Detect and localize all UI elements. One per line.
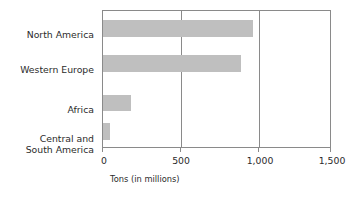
category-axis-labels: North America Western Europe Africa Cent… [0,10,98,148]
bar-chart: North America Western Europe Africa Cent… [0,0,360,200]
tick-label-1500: 1,500 [319,155,346,166]
x-axis-title: Tons (in millions) [110,174,180,184]
tick-label-0: 0 [101,155,107,166]
tickmark-1000 [258,148,259,152]
category-label-north-america: North America [27,30,94,41]
category-label-africa: Africa [67,105,94,116]
bar-africa [103,95,131,111]
category-label-western-europe: Western Europe [20,65,94,76]
tick-label-500: 500 [172,155,190,166]
tick-label-1000: 1,000 [247,155,274,166]
tickmark-1500 [330,148,331,152]
plot-area [102,10,331,148]
bar-western-europe [103,55,241,72]
category-label-central-south-america: Central and South America [26,134,94,155]
gridline-1000 [259,11,260,147]
tickmark-0 [102,148,103,152]
bar-central-south-america [103,123,110,140]
tickmark-500 [180,148,181,152]
bar-north-america [103,20,253,37]
